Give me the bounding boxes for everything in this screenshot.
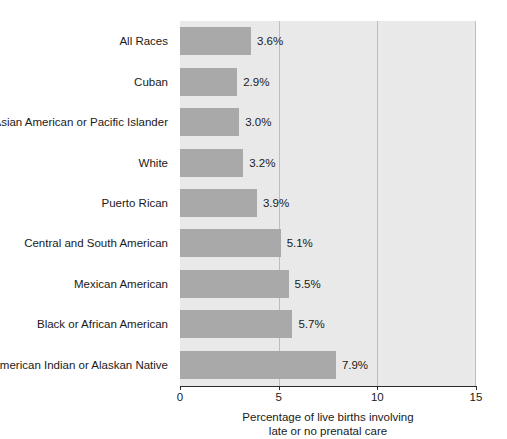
x-tick-label-5: 5 — [275, 391, 281, 403]
bar-value-8: 7.9% — [342, 359, 368, 371]
bar-value-0: 3.6% — [257, 35, 283, 47]
bar-1: 2.9% — [180, 68, 237, 96]
bar-2: 3.0% — [180, 108, 239, 136]
category-label-0: All Races — [0, 21, 174, 61]
category-label-6: Mexican American — [0, 264, 174, 304]
x-axis-line — [180, 386, 477, 387]
x-tick-mark-0 — [180, 386, 181, 390]
x-tick-label-10: 10 — [371, 391, 384, 403]
bar-7: 5.7% — [180, 310, 292, 338]
table-row: 5.1% — [180, 223, 476, 263]
category-label-7: Black or African American — [0, 304, 174, 344]
table-row: 3.9% — [180, 183, 476, 223]
bar-value-5: 5.1% — [287, 237, 313, 249]
x-tick-mark-5 — [279, 386, 280, 390]
bar-0: 3.6% — [180, 27, 251, 55]
category-label-4: Puerto Rican — [0, 183, 174, 223]
bar-value-3: 3.2% — [249, 157, 275, 169]
bar-4: 3.9% — [180, 189, 257, 217]
category-label-8: American Indian or Alaskan Native — [0, 345, 174, 385]
table-row: 7.9% — [180, 345, 476, 385]
table-row: 5.7% — [180, 304, 476, 344]
table-row: 3.0% — [180, 102, 476, 142]
x-tick-mark-15 — [476, 386, 477, 390]
bar-value-2: 3.0% — [245, 116, 271, 128]
category-axis: All Races Cuban Asian American or Pacifi… — [0, 21, 174, 386]
bar-6: 5.5% — [180, 270, 289, 298]
bar-value-7: 5.7% — [298, 318, 324, 330]
table-row: 2.9% — [180, 61, 476, 101]
category-label-2: Asian American or Pacific Islander — [0, 102, 174, 142]
table-row: 3.2% — [180, 142, 476, 182]
bar-value-6: 5.5% — [295, 278, 321, 290]
category-label-5: Central and South American — [0, 223, 174, 263]
bar-8: 7.9% — [180, 351, 336, 379]
table-row: 3.6% — [180, 21, 476, 61]
x-axis-title-line-1: Percentage of live births involving — [180, 410, 476, 424]
x-axis-title-line-2: late or no prenatal care — [180, 424, 476, 438]
bar-value-1: 2.9% — [243, 76, 269, 88]
x-tick-label-15: 15 — [470, 391, 483, 403]
x-axis-title: Percentage of live births involving late… — [180, 410, 476, 438]
x-tick-label-0: 0 — [177, 391, 183, 403]
bar-5: 5.1% — [180, 229, 281, 257]
plot-area: 3.6% 2.9% 3.0% 3.2% 3.9% 5.1% — [180, 21, 476, 386]
bar-chart: All Races Cuban Asian American or Pacifi… — [0, 0, 507, 439]
category-label-3: White — [0, 142, 174, 182]
bar-3: 3.2% — [180, 149, 243, 177]
category-label-1: Cuban — [0, 61, 174, 101]
bar-value-4: 3.9% — [263, 197, 289, 209]
x-tick-mark-10 — [377, 386, 378, 390]
table-row: 5.5% — [180, 264, 476, 304]
